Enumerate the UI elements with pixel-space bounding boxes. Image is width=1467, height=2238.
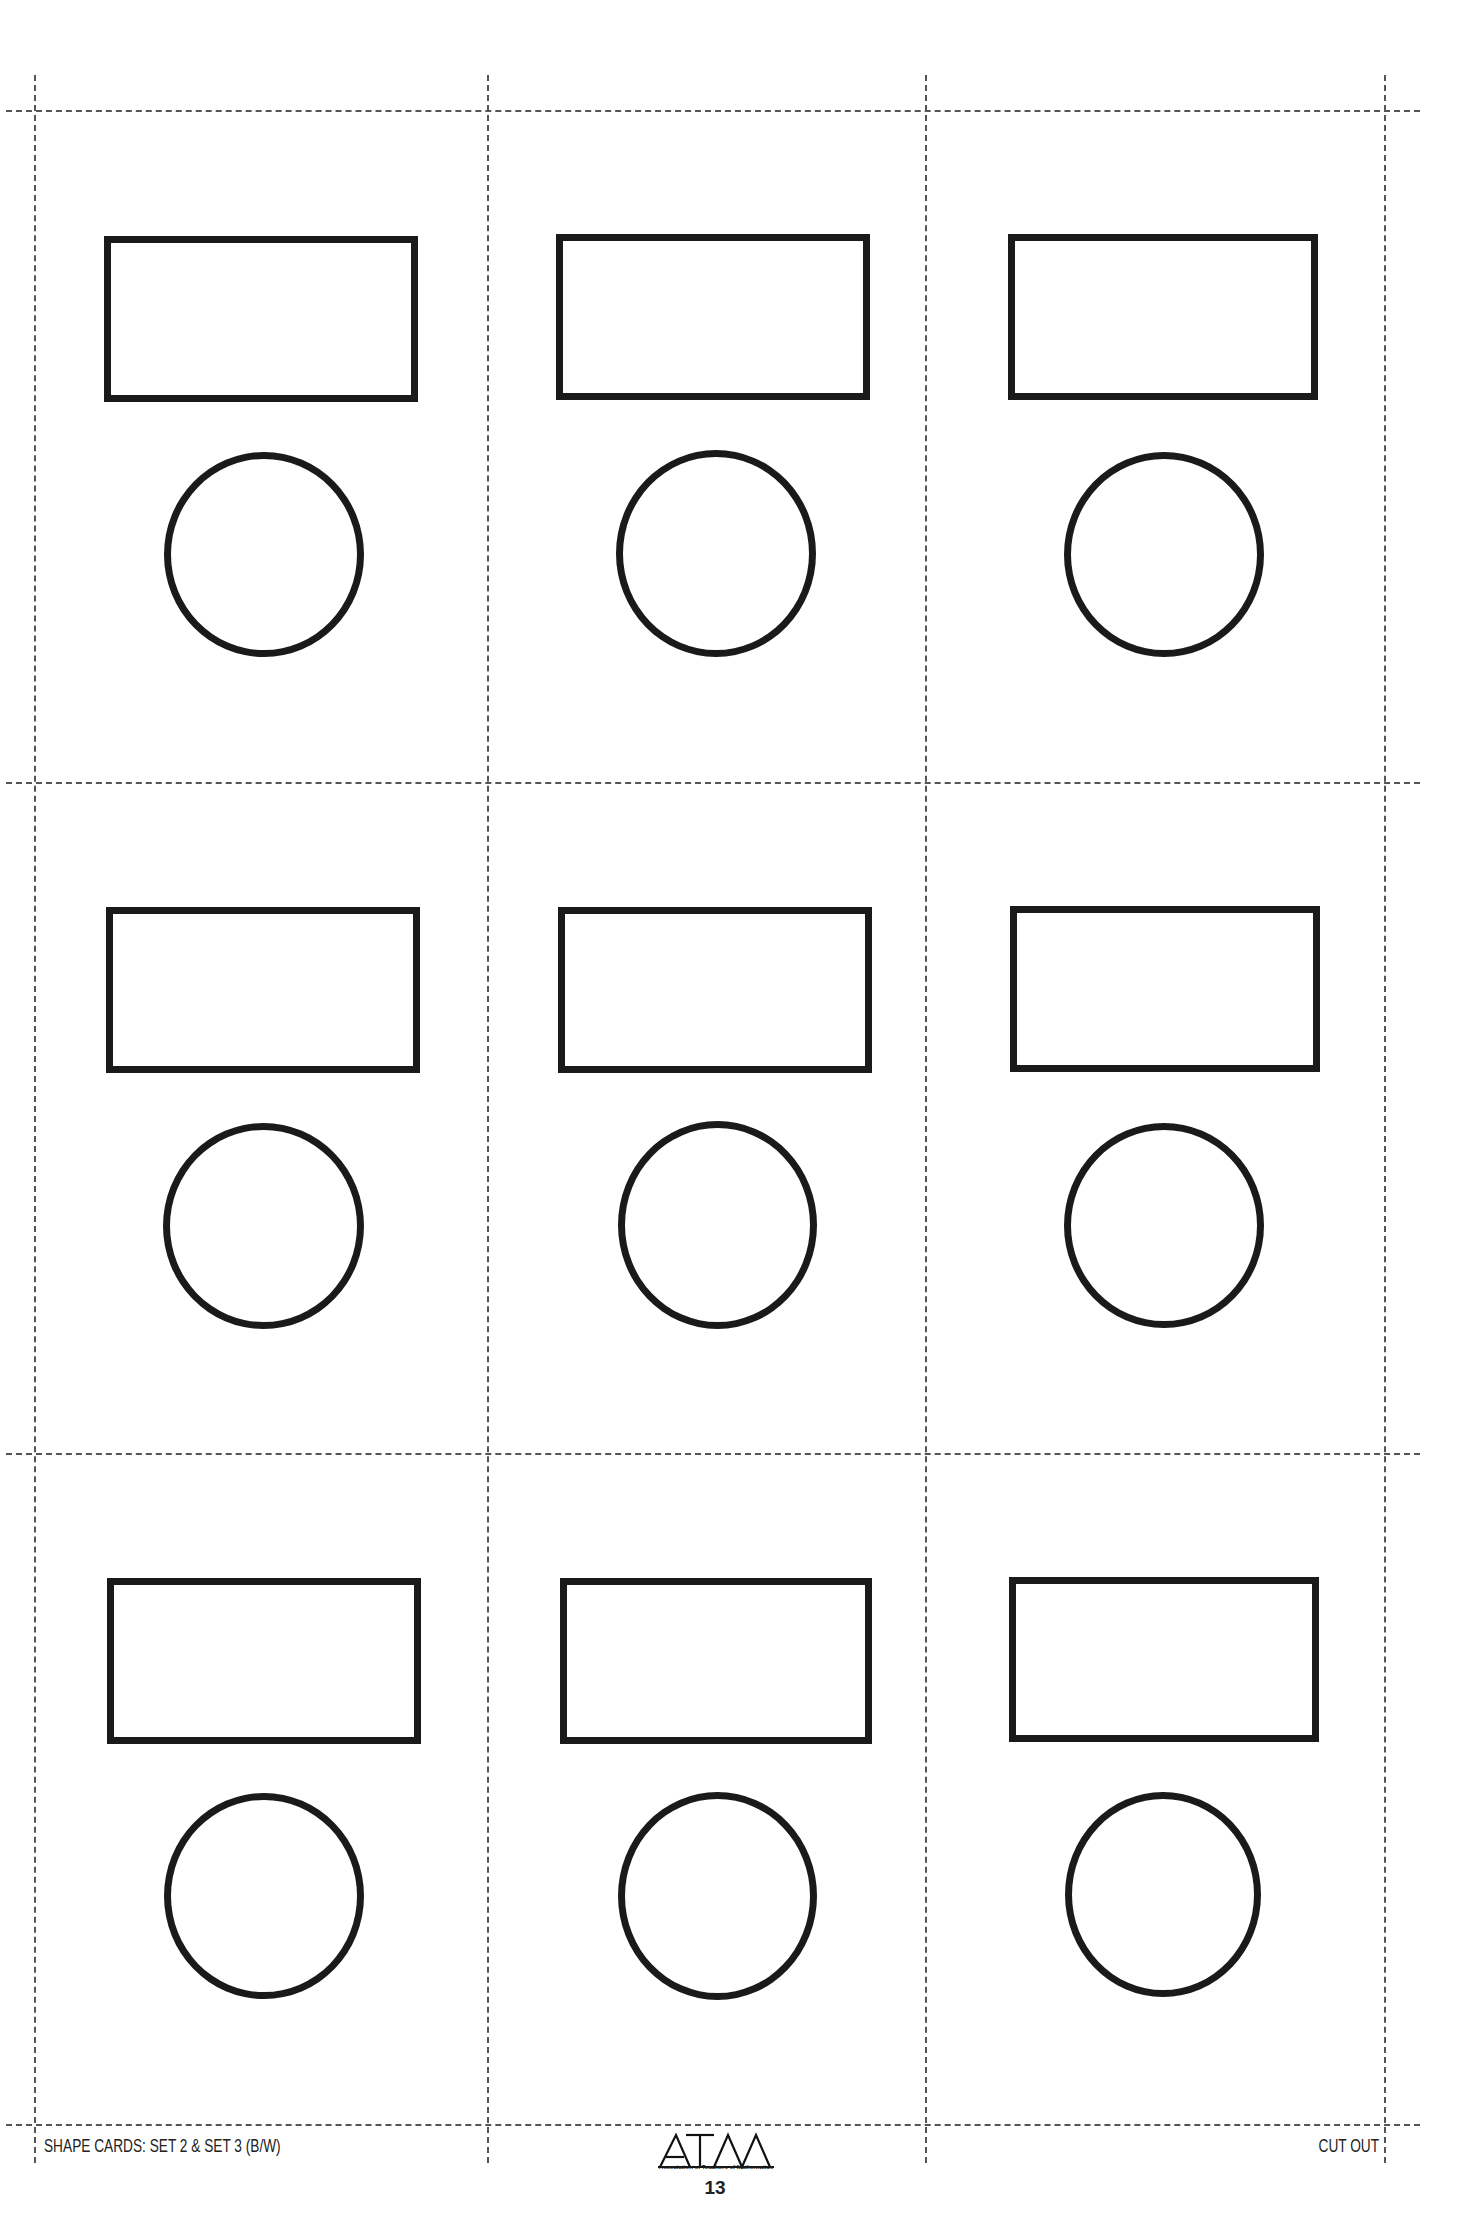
rectangle-shape	[106, 907, 420, 1073]
page-number: 13	[700, 2177, 730, 2199]
rectangle-shape	[104, 236, 418, 402]
cut-line-vertical-1	[34, 75, 36, 2163]
circle-shape	[616, 450, 816, 657]
circle-shape	[618, 1792, 817, 2000]
circle-shape	[164, 1793, 364, 1999]
rectangle-shape	[1008, 234, 1318, 400]
rectangle-shape	[1009, 1577, 1319, 1742]
cut-line-horizontal-1	[6, 110, 1420, 112]
circle-shape	[164, 452, 364, 657]
worksheet-page: SHAPE CARDS: SET 2 & SET 3 (B/W) Associa…	[0, 0, 1467, 2238]
rectangle-shape	[107, 1578, 421, 1744]
cut-line-vertical-3	[925, 75, 927, 2163]
circle-shape	[1064, 1123, 1264, 1328]
cut-line-vertical-2	[487, 75, 489, 2163]
rectangle-shape	[1010, 906, 1320, 1072]
cut-line-horizontal-2	[6, 782, 1420, 784]
circle-shape	[1064, 452, 1264, 657]
rectangle-shape	[556, 234, 870, 400]
circle-shape	[1065, 1792, 1261, 1997]
circle-shape	[618, 1121, 817, 1329]
cut-line-horizontal-3	[6, 1453, 1420, 1455]
cut-line-vertical-4	[1384, 75, 1386, 2163]
cut-out-instruction: CUT OUT	[1318, 2135, 1379, 2157]
rectangle-shape	[560, 1578, 872, 1744]
circle-shape	[163, 1123, 364, 1329]
worksheet-title: SHAPE CARDS: SET 2 & SET 3 (B/W)	[44, 2135, 281, 2157]
logo-subtitle: Association of Teachers of Mathematics	[656, 2164, 776, 2170]
rectangle-shape	[558, 907, 872, 1073]
